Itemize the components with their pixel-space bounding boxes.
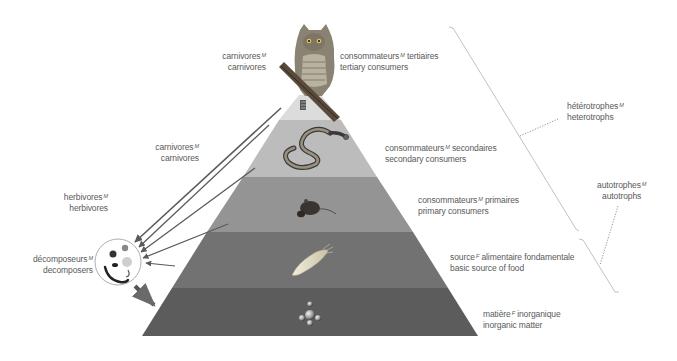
label-fr-rest: secondaires [450, 143, 497, 153]
label-en: tertiary consumers [340, 62, 439, 73]
gender-mark: F [476, 253, 479, 259]
autotrophs-bracket [579, 239, 619, 292]
gender-mark: M [195, 143, 199, 149]
gender-mark: M [262, 52, 266, 58]
autotrophs-leader [600, 206, 618, 265]
label-autotrophs: autotrophesM autotrophs [597, 180, 646, 201]
label-fr: autotrophes [597, 180, 641, 190]
label-decomposers: décomposeursM decomposers [33, 254, 93, 275]
label-secondary-consumers: consommateursM secondaires secondary con… [385, 143, 497, 164]
gender-mark: F [512, 310, 515, 316]
label-fr: herbivores [64, 192, 103, 202]
label-fr: consommateurs [385, 143, 444, 153]
label-carnivores-top: carnivoresM carnivores [222, 51, 266, 72]
label-heterotrophs: hétérotrophesM heterotrophs [567, 101, 624, 122]
label-fr-rest: inorganique [515, 309, 561, 319]
label-fr-rest: tertiaires [405, 51, 439, 61]
label-en: autotrophs [597, 191, 646, 202]
label-fr: consommateurs [340, 51, 399, 61]
label-en: inorganic matter [483, 320, 561, 331]
label-basic-source-of-food: sourceF alimentaire fondamentale basic s… [450, 252, 575, 273]
heterotrophs-leader [520, 119, 558, 136]
decomposers-icon [95, 239, 141, 285]
label-fr: source [450, 252, 475, 262]
pyramid-graphic [0, 0, 677, 361]
label-en: secondary consumers [385, 154, 497, 165]
label-herbivores: herbivoresM herbivores [64, 192, 108, 213]
label-fr: carnivores [222, 51, 260, 61]
label-en: herbivores [64, 203, 108, 214]
gender-mark: M [445, 144, 449, 150]
gender-mark: M [89, 255, 93, 261]
label-fr: matière [483, 309, 511, 319]
label-en: heterotrophs [567, 112, 624, 123]
label-fr: hétérotrophes [567, 101, 618, 111]
label-fr: consommateurs [418, 195, 477, 205]
gender-mark: M [400, 52, 404, 58]
label-fr: décomposeurs [33, 254, 88, 264]
gender-mark: M [619, 102, 623, 108]
label-tertiary-consumers: consommateursM tertiaires tertiary consu… [340, 51, 439, 72]
label-carnivores-mid: carnivoresM carnivores [155, 142, 199, 163]
label-fr-rest: alimentaire fondamentale [479, 252, 574, 262]
food-pyramid-diagram: consommateursM tertiaires tertiary consu… [0, 0, 677, 361]
gender-mark: M [104, 193, 108, 199]
label-inorganic-matter: matièreF inorganique inorganic matter [483, 309, 561, 330]
label-primary-consumers: consommateursM primaires primary consume… [418, 195, 519, 216]
gender-mark: M [478, 196, 482, 202]
label-fr: carnivores [155, 142, 193, 152]
label-en: basic source of food [450, 263, 575, 274]
label-en: carnivores [222, 62, 266, 73]
label-fr-rest: primaires [483, 195, 519, 205]
label-en: primary consumers [418, 206, 519, 217]
label-en: decomposers [33, 265, 93, 276]
arrow-basic-to-decomposers [146, 263, 175, 266]
label-en: carnivores [155, 153, 199, 164]
arrow-decomposers-to-inorganic [135, 286, 154, 305]
gender-mark: M [642, 181, 646, 187]
